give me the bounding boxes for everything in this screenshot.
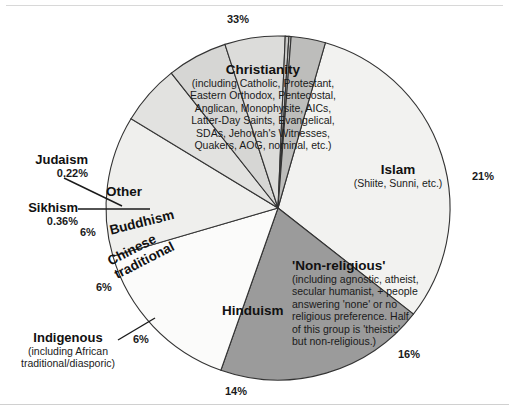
percent-islam: 21%	[472, 170, 494, 182]
pie-chart-figure: Christianity (including Catholic, Protes…	[0, 0, 509, 415]
nr-sub-line-2: secular humanist, + people	[292, 285, 437, 297]
slice-label-christianity: Christianity (including Catholic, Protes…	[148, 62, 378, 151]
slice-label-nonreligious: 'Non-religious' (including agnostic, ath…	[292, 258, 437, 347]
percent-hinduism: 14%	[225, 385, 247, 397]
christianity-title: Christianity	[148, 62, 378, 77]
chr-sub-line-6: Quakers, AOG, nominal, etc.)	[148, 139, 378, 151]
nonreligious-title: 'Non-religious'	[292, 258, 437, 273]
indigenous-subtext-line1: (including African	[8, 345, 128, 357]
slice-label-hinduism: Hinduism	[222, 303, 284, 318]
islam-subtext: (Shiite, Sunni, etc.)	[338, 177, 458, 189]
sikhism-percent: 0.36%	[0, 215, 78, 227]
nr-sub-line-1: (including agnostic, atheist,	[292, 273, 437, 285]
callout-indigenous: Indigenous (including African traditiona…	[8, 330, 128, 370]
chr-sub-line-3: Anglican, Monophysite, AICs,	[148, 102, 378, 114]
indigenous-subtext-line2: traditional/diasporic)	[8, 357, 128, 369]
percent-buddhism: 6%	[80, 226, 96, 238]
indigenous-title: Indigenous	[8, 330, 128, 345]
callout-sikhism: Sikhism 0.36%	[0, 200, 78, 227]
slice-label-other: Other	[106, 184, 142, 199]
judaism-percent: 0.22%	[0, 167, 88, 179]
chr-sub-line-4: Latter-Day Saints, Evangelical,	[148, 114, 378, 126]
percent-indigenous: 6%	[133, 333, 149, 345]
nr-sub-line-4: religious preference. Half	[292, 310, 437, 322]
slice-label-islam: Islam (Shiite, Sunni, etc.)	[338, 162, 458, 189]
judaism-title: Judaism	[0, 152, 88, 167]
nr-sub-line-3: answering 'none' or no	[292, 298, 437, 310]
chr-sub-line-5: SDAs, Jehovah's Witnesses,	[148, 127, 378, 139]
islam-title: Islam	[338, 162, 458, 177]
christianity-subtext: (including Catholic, Protestant,Eastern …	[148, 77, 378, 151]
nr-sub-line-6: but non-religious.)	[292, 335, 437, 347]
callout-judaism: Judaism 0.22%	[0, 152, 88, 179]
percent-nonreligious: 16%	[398, 348, 420, 360]
chr-sub-line-1: (including Catholic, Protestant,	[148, 77, 378, 89]
chr-sub-line-2: Eastern Orthodox, Pentecostal,	[148, 89, 378, 101]
percent-chinese: 6%	[96, 281, 112, 293]
nonreligious-subtext: (including agnostic, atheist,secular hum…	[292, 273, 437, 347]
percent-christianity: 33%	[227, 13, 249, 25]
nr-sub-line-5: of this group is 'theistic'	[292, 323, 437, 335]
sikhism-title: Sikhism	[0, 200, 78, 215]
